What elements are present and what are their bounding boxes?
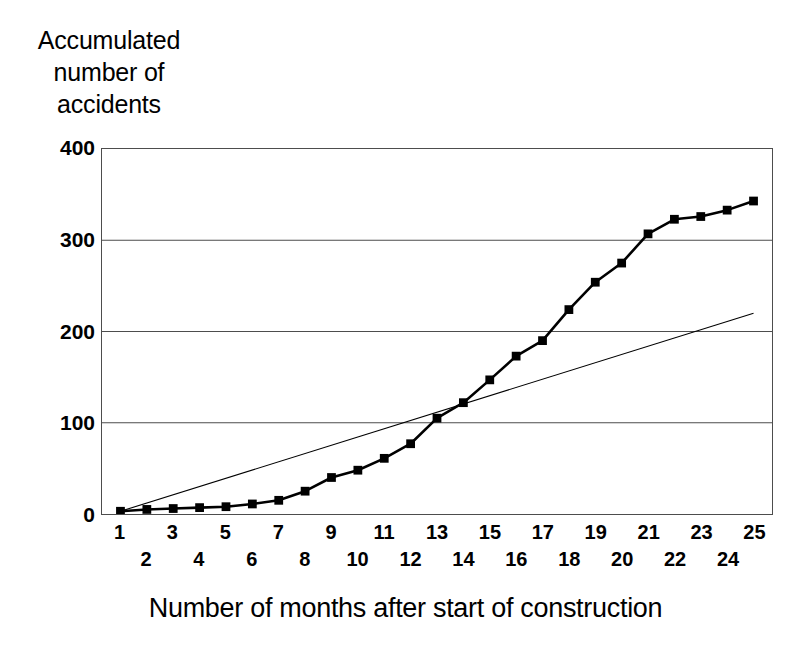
x-tick-label-23: 23 [682, 521, 722, 543]
x-tick-label-6: 6 [232, 548, 272, 570]
x-tick-label-14: 14 [443, 548, 483, 570]
data-point-month-23 [696, 212, 705, 221]
x-tick-label-16: 16 [496, 548, 536, 570]
x-tick-label-3: 3 [152, 521, 192, 543]
x-tick-label-5: 5 [205, 521, 245, 543]
x-tick-label-12: 12 [391, 548, 431, 570]
y-tick-label-200: 200 [9, 321, 95, 342]
data-point-month-19 [591, 278, 600, 287]
data-point-month-7 [274, 496, 283, 505]
x-tick-label-1: 1 [100, 521, 140, 543]
data-point-month-10 [353, 466, 362, 475]
y-axis-title-line-2: number of [14, 56, 204, 88]
accident-accumulation-chart: Accumulated number of accidents 40030020… [0, 0, 811, 648]
data-point-month-5 [222, 502, 231, 511]
y-axis-title-line-1: Accumulated [14, 24, 204, 56]
data-point-month-21 [644, 229, 653, 238]
x-axis-tick-labels: 1234567891011121314151617181920212223242… [101, 519, 773, 581]
data-point-month-18 [564, 305, 573, 314]
x-tick-label-9: 9 [311, 521, 351, 543]
x-tick-label-24: 24 [708, 548, 748, 570]
data-point-month-25 [749, 197, 758, 206]
x-tick-label-2: 2 [126, 548, 166, 570]
data-point-month-6 [248, 500, 257, 509]
series-accumulated-accidents [116, 197, 758, 514]
y-tick-label-0: 0 [9, 504, 95, 525]
data-point-month-24 [723, 206, 732, 215]
x-tick-label-8: 8 [285, 548, 325, 570]
x-tick-label-4: 4 [179, 548, 219, 570]
y-tick-label-100: 100 [9, 412, 95, 433]
x-tick-label-25: 25 [734, 521, 774, 543]
series-line [120, 313, 753, 511]
x-tick-label-18: 18 [549, 548, 589, 570]
data-point-month-9 [327, 473, 336, 482]
series-line [120, 201, 753, 511]
data-point-month-2 [142, 505, 151, 514]
y-tick-label-300: 300 [9, 229, 95, 250]
x-tick-label-17: 17 [523, 521, 563, 543]
x-tick-label-21: 21 [629, 521, 669, 543]
data-point-month-13 [433, 414, 442, 423]
x-tick-label-19: 19 [576, 521, 616, 543]
x-tick-label-22: 22 [655, 548, 695, 570]
data-point-month-20 [617, 259, 626, 268]
x-axis-title: Number of months after start of construc… [0, 592, 811, 624]
data-point-month-12 [406, 439, 415, 448]
data-point-month-3 [169, 504, 178, 513]
x-tick-label-20: 20 [602, 548, 642, 570]
x-tick-label-15: 15 [470, 521, 510, 543]
plot-area [101, 148, 773, 515]
y-tick-label-400: 400 [9, 137, 95, 158]
data-point-month-4 [195, 503, 204, 512]
data-point-month-17 [538, 336, 547, 345]
y-axis-title: Accumulated number of accidents [14, 24, 204, 120]
data-point-month-11 [380, 454, 389, 463]
data-point-month-15 [485, 375, 494, 384]
data-series-layer [102, 149, 772, 514]
x-tick-label-7: 7 [258, 521, 298, 543]
data-point-month-8 [301, 487, 310, 496]
x-tick-label-13: 13 [417, 521, 457, 543]
data-point-month-22 [670, 215, 679, 224]
y-axis-title-line-3: accidents [14, 88, 204, 120]
x-tick-label-10: 10 [338, 548, 378, 570]
data-point-month-16 [512, 352, 521, 361]
x-tick-label-11: 11 [364, 521, 404, 543]
series-linear-reference [120, 313, 753, 511]
y-axis-tick-labels: 4003002001000 [5, 148, 95, 515]
